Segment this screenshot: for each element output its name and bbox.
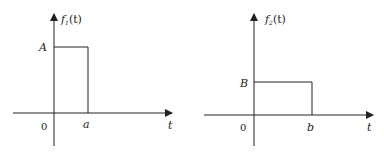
- origin-label: 0: [240, 122, 246, 133]
- width-label: b: [307, 121, 314, 134]
- plot-f2: f2(t) B 0 b t: [204, 13, 373, 146]
- y-axis-label: f1(t): [60, 13, 82, 26]
- origin-label: 0: [41, 121, 47, 132]
- amplitude-label: A: [38, 41, 47, 54]
- plot-f1: f1(t) A 0 a t: [13, 13, 173, 146]
- diagram-canvas: f1(t) A 0 a t f2(t) B 0 b t: [0, 0, 384, 156]
- pulse-f2: [254, 82, 312, 115]
- pulse-f1: [54, 47, 88, 113]
- y-axis-label: f2(t): [264, 13, 286, 26]
- x-axis-label: t: [367, 121, 372, 134]
- amplitude-label: B: [239, 77, 248, 90]
- width-label: a: [83, 118, 90, 131]
- x-axis-label: t: [168, 119, 173, 132]
